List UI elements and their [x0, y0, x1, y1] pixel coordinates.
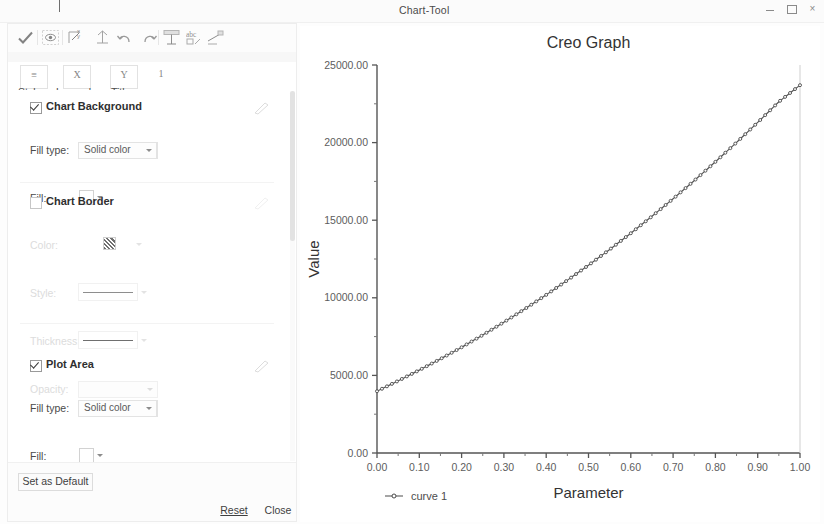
series-marker — [380, 387, 383, 390]
chart-background-title: Chart Background — [46, 100, 142, 112]
chart-title: Creo Graph — [547, 34, 631, 51]
plot-fill-type-dropdown[interactable] — [138, 400, 157, 417]
series-marker — [724, 151, 727, 154]
section-header-chart-background[interactable]: Chart Background — [8, 100, 286, 118]
series-marker — [664, 203, 667, 206]
reset-button[interactable]: Reset — [216, 503, 252, 519]
border-thickness-label: Thickness: — [30, 335, 80, 347]
series-marker — [480, 334, 483, 337]
series-marker — [759, 119, 762, 122]
border-color-label: Color: — [30, 239, 58, 251]
y-axis-tick-label: 20000.00 — [324, 136, 368, 148]
tab-row: ≡ Styles X Legend Y Title 1 — [8, 62, 296, 90]
x-axis-tick-label: 0.50 — [578, 461, 599, 473]
set-as-default-button[interactable]: Set as Default — [18, 473, 93, 491]
series-marker — [485, 331, 488, 334]
series-marker — [709, 165, 712, 168]
chart-format-icon[interactable] — [206, 28, 225, 47]
chart-title-icon[interactable] — [162, 28, 181, 47]
panel-toolbar: x y — [8, 24, 296, 53]
row-border-color: Color: — [8, 235, 286, 257]
series-marker — [629, 232, 632, 235]
series-marker — [729, 147, 732, 150]
x-axis-tick-label: 0.60 — [621, 461, 642, 473]
close-button[interactable]: × — [807, 3, 818, 15]
series-marker — [589, 262, 592, 265]
series-marker — [719, 156, 722, 159]
undo-icon[interactable] — [116, 28, 135, 47]
toolbar-separator — [37, 30, 38, 45]
y-axis-tick-label: 0.00 — [348, 447, 369, 459]
series-marker — [525, 307, 528, 310]
panel-scrollbar[interactable] — [290, 91, 295, 461]
section-chart-border: Chart Border Color: Style: — [8, 195, 286, 301]
series-marker — [385, 385, 388, 388]
series-marker — [679, 191, 682, 194]
series-marker — [575, 273, 578, 276]
series-marker — [490, 328, 493, 331]
series-marker — [614, 243, 617, 246]
series-marker — [535, 300, 538, 303]
series-marker — [540, 297, 543, 300]
section-divider-2 — [20, 323, 274, 324]
tab-curve-glyph: 1 — [148, 68, 174, 79]
series-marker — [624, 236, 627, 239]
toolbar-separator-2 — [62, 30, 63, 45]
redo-icon[interactable] — [139, 28, 158, 47]
series-marker — [410, 372, 413, 375]
series-marker — [594, 258, 597, 261]
chart-legend[interactable]: curve 1 — [385, 490, 447, 502]
plot-fill-dropdown-arrow[interactable] — [97, 454, 103, 457]
border-style-label: Style: — [30, 287, 56, 299]
series-marker — [430, 362, 433, 365]
close-dialog-button[interactable]: Close — [261, 503, 295, 519]
section-header-plot-area[interactable]: Plot Area — [8, 358, 286, 376]
series-marker — [500, 322, 503, 325]
plot-area-checkbox[interactable] — [30, 360, 42, 372]
series-marker — [794, 88, 797, 91]
chart-border-brush-icon[interactable] — [254, 196, 270, 210]
background-fill-type-value: Solid color — [84, 144, 131, 155]
x-axis-tick-label: 0.00 — [367, 461, 388, 473]
background-fill-type-dropdown[interactable] — [138, 142, 157, 159]
minimize-button[interactable] — [765, 3, 776, 15]
y-axis-title: Value — [305, 240, 322, 277]
grid-settings-icon[interactable]: x y — [66, 28, 85, 47]
series-marker — [470, 340, 473, 343]
tab-curve-button[interactable]: 1 — [148, 65, 174, 87]
series-marker — [774, 104, 777, 107]
series-marker — [545, 293, 548, 296]
maximize-button[interactable] — [786, 3, 797, 15]
chart-border-title: Chart Border — [46, 195, 114, 207]
chart-legend-icon[interactable]: abc — [184, 28, 203, 47]
plot-area-brush-icon[interactable] — [254, 359, 270, 373]
series-marker — [455, 349, 458, 352]
axis-icon[interactable] — [93, 28, 112, 47]
series-marker — [764, 114, 767, 117]
section-plot-area: Plot Area Fill type: Solid color Fill: — [8, 358, 286, 442]
chart-border-checkbox[interactable] — [30, 197, 42, 209]
series-marker — [649, 216, 652, 219]
section-chart-background: Chart Background Fill type: Solid color — [8, 100, 286, 162]
section-divider-1 — [20, 182, 274, 183]
chart-background-checkbox[interactable] — [30, 102, 42, 114]
creo-graph-plot[interactable]: Creo Graph0.005000.0010000.0015000.00200… — [300, 26, 820, 522]
series-marker — [465, 343, 468, 346]
plot-fill-swatch[interactable] — [79, 448, 94, 462]
section-header-chart-border[interactable]: Chart Border — [8, 195, 286, 213]
apply-check-icon[interactable] — [16, 28, 35, 47]
preview-eye-icon[interactable] — [41, 28, 60, 47]
svg-text:y: y — [77, 33, 80, 39]
chart-background-brush-icon[interactable] — [254, 101, 270, 115]
series-marker — [699, 174, 702, 177]
panel-scrollbar-thumb[interactable] — [290, 91, 295, 241]
series-marker — [565, 280, 568, 283]
chart-area: Creo Graph0.005000.0010000.0015000.00200… — [300, 26, 820, 522]
panel-footer: Set as Default Reset Close — [8, 462, 296, 521]
y-axis-tick-label: 15000.00 — [324, 214, 368, 226]
series-marker — [689, 182, 692, 185]
series-marker — [749, 128, 752, 131]
series-marker — [734, 142, 737, 145]
title-bar: Chart-Tool × — [0, 0, 824, 23]
row-plot-fill: Fill: — [8, 446, 286, 462]
